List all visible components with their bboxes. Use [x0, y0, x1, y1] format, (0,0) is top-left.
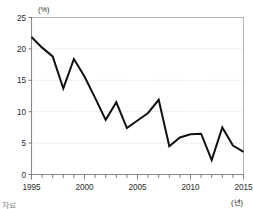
plot-area [32, 18, 244, 175]
y-tick-label: 5 [21, 139, 26, 148]
y-axis-unit-label: (%) [38, 5, 50, 14]
y-tick-label: 15 [17, 76, 27, 85]
x-tick-label: 1995 [22, 183, 41, 192]
x-tick-label: 2010 [181, 183, 200, 192]
x-axis-ticks [32, 175, 244, 180]
y-axis-tick-labels: 0510152025 [17, 14, 27, 180]
line-chart: 0510152025 19952000200520102015 (%) (년) [0, 0, 253, 209]
x-axis-unit-label: (년) [231, 198, 243, 207]
footer-text-fragment: 자료 [2, 202, 76, 209]
y-tick-label: 20 [17, 45, 27, 54]
chart-figure: 0510152025 19952000200520102015 (%) (년) … [0, 0, 253, 209]
x-tick-label: 2015 [234, 183, 253, 192]
y-tick-label: 10 [17, 108, 27, 117]
y-tick-label: 25 [17, 14, 27, 23]
x-axis-tick-labels: 19952000200520102015 [22, 183, 253, 192]
x-tick-label: 2000 [75, 183, 94, 192]
x-tick-label: 2005 [128, 183, 147, 192]
y-tick-label: 0 [21, 171, 26, 180]
